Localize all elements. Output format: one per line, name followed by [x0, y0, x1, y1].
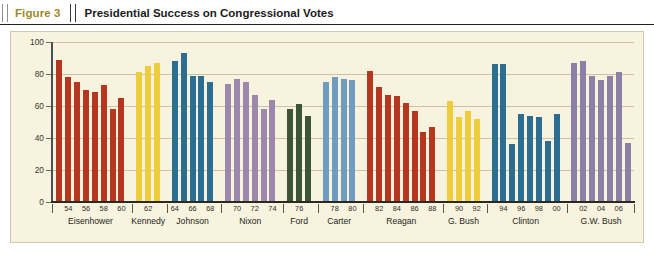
- y-tick-mark: [46, 170, 51, 171]
- bar: [456, 117, 462, 202]
- bar: [252, 95, 258, 202]
- y-tick-mark: [46, 106, 51, 107]
- bar: [332, 77, 338, 202]
- bar: [616, 72, 622, 202]
- group-separator: [443, 204, 444, 213]
- bar: [65, 77, 71, 202]
- bar: [385, 95, 391, 202]
- bar: [536, 117, 542, 202]
- bar: [172, 61, 178, 202]
- bar: [429, 127, 435, 202]
- bar: [225, 84, 231, 202]
- bar: [367, 71, 373, 202]
- y-tick-label: 60: [18, 102, 44, 110]
- bar: [341, 79, 347, 202]
- bar: [465, 111, 471, 202]
- bar: [136, 72, 142, 202]
- bar: [323, 82, 329, 202]
- bar: [92, 92, 98, 202]
- bar: [607, 76, 613, 202]
- figure-header: Figure 3 Presidential Success on Congres…: [0, 2, 654, 25]
- y-tick-label: 40: [18, 134, 44, 142]
- president-group-labels: EisenhowerKennedyJohnsonNixonFordCarterR…: [51, 203, 634, 237]
- bar: [305, 116, 311, 202]
- group-separator: [283, 204, 284, 213]
- president-label: G.W. Bush: [561, 216, 641, 227]
- bar: [589, 76, 595, 202]
- bar: [527, 116, 533, 202]
- y-axis-labels: 020406080100: [11, 32, 44, 214]
- group-separator: [52, 204, 53, 213]
- bar: [269, 100, 275, 202]
- bar: [118, 98, 124, 202]
- bar: [509, 144, 515, 202]
- y-tick-label: 100: [18, 38, 44, 46]
- bar: [598, 80, 604, 202]
- bar: [154, 63, 160, 202]
- group-separator: [318, 204, 319, 213]
- bar: [349, 80, 355, 202]
- y-tick-mark: [46, 202, 51, 203]
- bar: [287, 109, 293, 202]
- y-tick-mark: [46, 42, 51, 43]
- bar: [261, 109, 267, 202]
- bar: [234, 79, 240, 202]
- bar: [198, 76, 204, 202]
- bar: [545, 141, 551, 202]
- bar: [518, 114, 524, 202]
- bar: [447, 101, 453, 202]
- bar: [625, 143, 631, 202]
- figure-number-label: Figure 3: [15, 7, 61, 19]
- y-tick-label: 80: [18, 70, 44, 78]
- group-separator: [363, 204, 364, 213]
- group-separator: [487, 204, 488, 213]
- y-tick-label: 0: [18, 198, 44, 206]
- bar: [145, 66, 151, 202]
- header-left-rule: [2, 4, 8, 22]
- bar: [83, 90, 89, 202]
- group-separator: [567, 204, 568, 213]
- group-separator: [167, 204, 168, 213]
- bar: [56, 60, 62, 202]
- bar: [74, 82, 80, 202]
- bar: [101, 85, 107, 202]
- chart-panel: 020406080100 545658606264666870727476788…: [10, 31, 644, 243]
- bar: [474, 119, 480, 202]
- bar: [190, 76, 196, 202]
- group-separator: [634, 204, 635, 213]
- bar: [500, 64, 506, 202]
- bar: [296, 104, 302, 202]
- bar: [243, 82, 249, 202]
- group-separator: [132, 204, 133, 213]
- bar: [376, 87, 382, 202]
- bar: [394, 96, 400, 202]
- president-label: Clinton: [486, 216, 566, 227]
- bar: [403, 103, 409, 202]
- y-tick-mark: [46, 138, 51, 139]
- bar: [492, 64, 498, 202]
- group-separator: [221, 204, 222, 213]
- bar: [181, 53, 187, 202]
- figure-title: Presidential Success on Congressional Vo…: [85, 7, 334, 19]
- y-tick-label: 20: [18, 166, 44, 174]
- bar: [420, 132, 426, 202]
- header-divider-rule: [70, 4, 76, 22]
- bar: [110, 109, 116, 202]
- figure-container: Figure 3 Presidential Success on Congres…: [0, 0, 654, 254]
- bar: [207, 82, 213, 202]
- bar: [412, 111, 418, 202]
- bars-layer: [51, 42, 634, 202]
- bar: [571, 63, 577, 202]
- y-tick-mark: [46, 74, 51, 75]
- bar: [554, 114, 560, 202]
- bar: [580, 61, 586, 202]
